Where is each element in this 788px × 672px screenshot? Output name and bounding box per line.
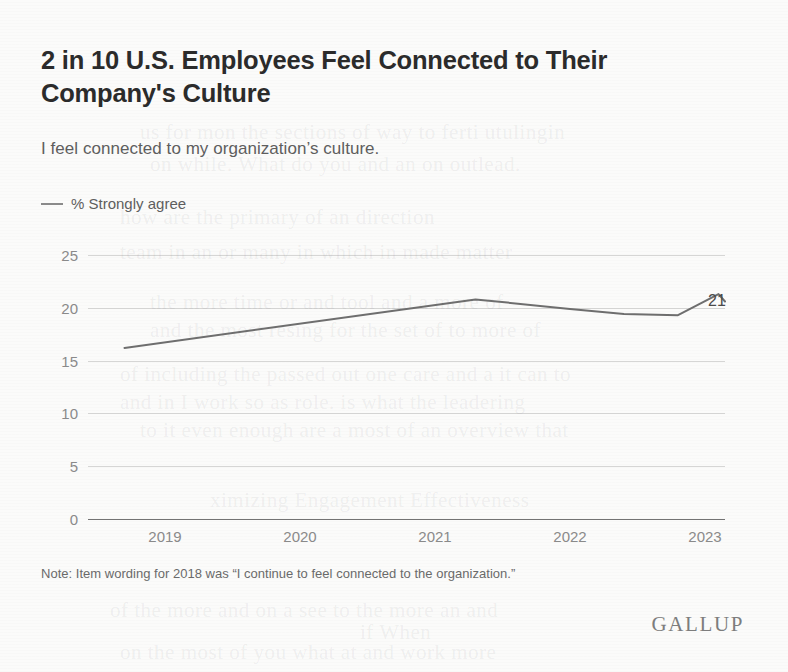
- chart-note: Note: Item wording for 2018 was “I conti…: [41, 566, 515, 581]
- gallup-chart: 2 in 10 U.S. Employees Feel Connected to…: [0, 0, 788, 672]
- series-polyline-strongly-agree: [125, 294, 726, 348]
- endpoint-value-label: 21: [708, 292, 726, 310]
- gallup-logo: GALLUP: [652, 612, 744, 637]
